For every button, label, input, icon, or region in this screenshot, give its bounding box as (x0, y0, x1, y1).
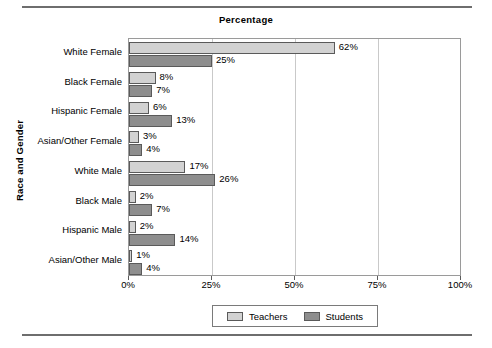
bar-group: 3%4% (129, 128, 460, 158)
bar-value-label: 7% (156, 84, 170, 96)
legend-swatch-icon (227, 312, 243, 321)
y-tick-label: Asian/Other Male (12, 254, 122, 265)
x-tick-label: 25% (201, 279, 220, 290)
bar-value-label: 8% (160, 71, 174, 83)
y-tick-label: White Female (12, 46, 122, 57)
x-tick-mark (460, 276, 461, 280)
bar-value-label: 2% (140, 190, 154, 202)
bottom-divider-rule (22, 334, 472, 336)
bar-teachers[interactable] (129, 191, 136, 203)
bar-students[interactable] (129, 115, 172, 127)
legend-label: Teachers (249, 311, 288, 322)
bar-group: 2%7% (129, 188, 460, 218)
y-axis-tick-labels: White FemaleBlack FemaleHispanic FemaleA… (8, 38, 122, 276)
bar-value-label: 17% (189, 160, 208, 172)
bar-students[interactable] (129, 204, 152, 216)
x-tick-label: 75% (367, 279, 386, 290)
y-tick-label: Black Male (12, 195, 122, 206)
bar-students[interactable] (129, 55, 212, 67)
bar-students[interactable] (129, 85, 152, 97)
bar-teachers[interactable] (129, 102, 149, 114)
x-axis-tick-labels: 0%25%50%75%100% (0, 279, 492, 299)
bar-value-label: 1% (136, 249, 150, 261)
y-tick-label: Hispanic Female (12, 105, 122, 116)
x-tick-mark (377, 276, 378, 280)
x-tick-label: 0% (121, 279, 135, 290)
legend-item-teachers[interactable]: Teachers (227, 311, 288, 322)
bar-students[interactable] (129, 234, 175, 246)
chart-legend: TeachersStudents (212, 305, 378, 327)
y-tick-label: White Male (12, 165, 122, 176)
x-tick-label: 50% (284, 279, 303, 290)
bar-teachers[interactable] (129, 72, 156, 84)
y-tick-label: Hispanic Male (12, 224, 122, 235)
bar-value-label: 13% (176, 114, 195, 126)
bar-group: 6%13% (129, 99, 460, 129)
legend-swatch-icon (304, 312, 320, 321)
bar-group: 17%26% (129, 158, 460, 188)
bar-value-label: 7% (156, 203, 170, 215)
bar-teachers[interactable] (129, 42, 335, 54)
y-tick-label: Black Female (12, 76, 122, 87)
bar-value-label: 14% (179, 233, 198, 245)
bar-students[interactable] (129, 263, 142, 275)
bar-teachers[interactable] (129, 221, 136, 233)
bar-teachers[interactable] (129, 250, 132, 262)
x-tick-mark (128, 276, 129, 280)
x-tick-mark (211, 276, 212, 280)
bar-value-label: 26% (219, 173, 238, 185)
bar-group: 2%14% (129, 218, 460, 248)
bar-teachers[interactable] (129, 131, 139, 143)
bar-value-label: 3% (143, 130, 157, 142)
bar-group: 8%7% (129, 69, 460, 99)
bar-students[interactable] (129, 174, 215, 186)
top-divider-rule (22, 6, 472, 8)
bar-group: 62%25% (129, 39, 460, 69)
bar-value-label: 25% (216, 54, 235, 66)
y-tick-label: Asian/Other Female (12, 135, 122, 146)
bar-value-label: 4% (146, 262, 160, 274)
bar-group: 1%4% (129, 247, 460, 277)
plot-area: 62%25%8%7%6%13%3%4%17%26%2%7%2%14%1%4% (128, 38, 461, 276)
bar-teachers[interactable] (129, 161, 185, 173)
bar-value-label: 4% (146, 143, 160, 155)
bar-students[interactable] (129, 144, 142, 156)
chart-title: Percentage (0, 14, 492, 25)
bar-value-label: 62% (339, 41, 358, 53)
x-tick-label: 100% (448, 279, 472, 290)
legend-label: Students (326, 311, 364, 322)
x-tick-mark (294, 276, 295, 280)
bar-value-label: 6% (153, 101, 167, 113)
bar-value-label: 2% (140, 220, 154, 232)
legend-item-students[interactable]: Students (304, 311, 364, 322)
